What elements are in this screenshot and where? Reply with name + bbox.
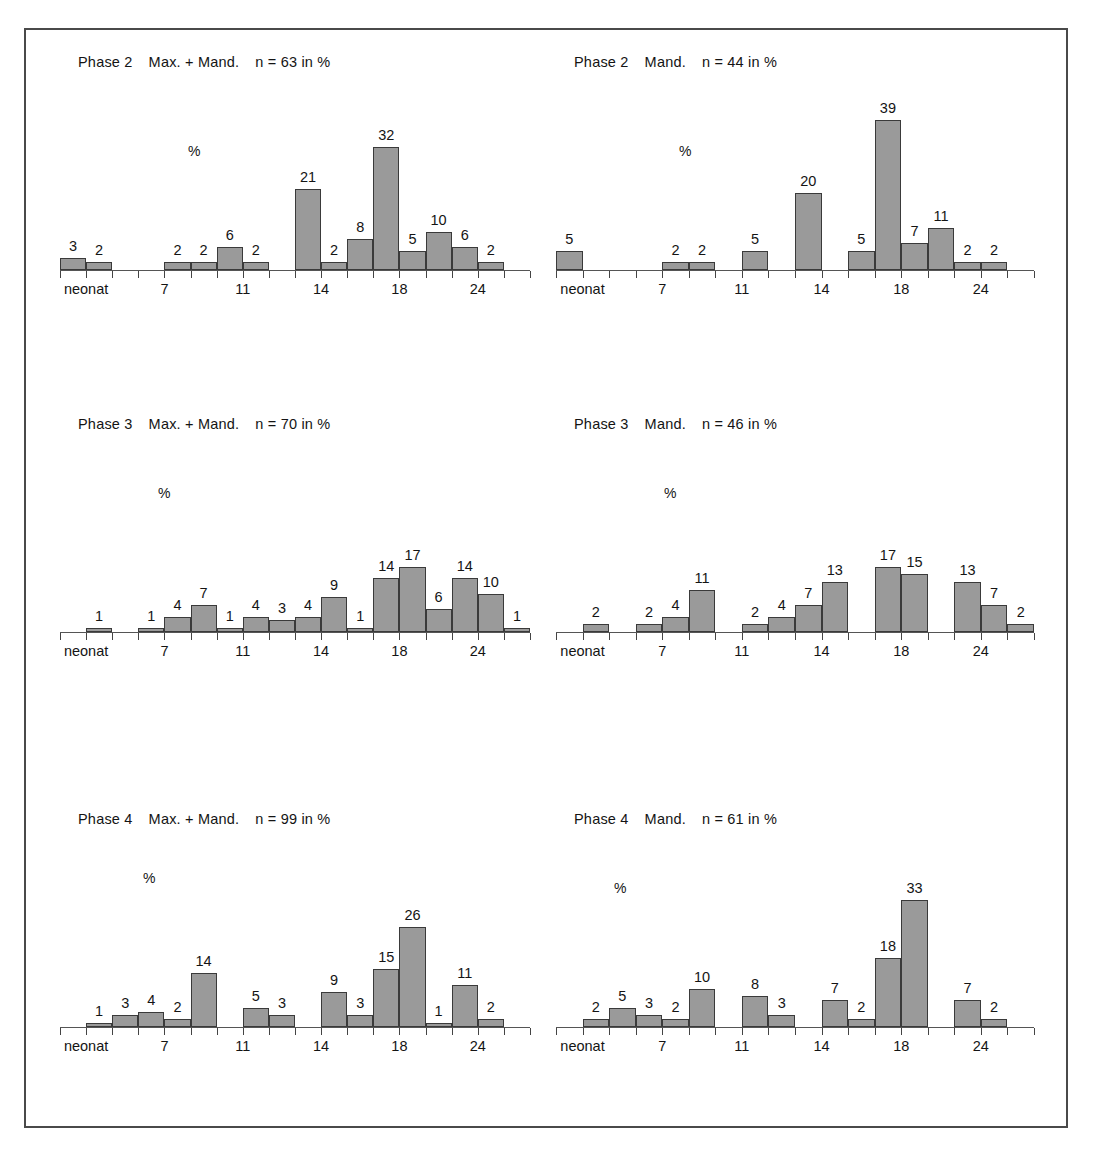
- bar-value-label: 5: [735, 231, 775, 247]
- x-axis-tick-label: 7: [124, 281, 204, 297]
- x-axis-tick-label: 7: [622, 281, 702, 297]
- bar: [373, 578, 399, 632]
- bar: [662, 1019, 689, 1027]
- x-axis-tick: [164, 271, 165, 278]
- bar: [742, 251, 769, 270]
- bar-value-label: 15: [895, 554, 935, 570]
- x-axis-tick: [1034, 271, 1035, 278]
- chart-title-n: n = 63 in %: [255, 54, 330, 70]
- bar: [795, 193, 822, 270]
- x-axis-tick-label: 7: [622, 643, 702, 659]
- x-axis-tick: [373, 271, 374, 278]
- x-axis-tick: [742, 633, 743, 640]
- bar: [164, 1019, 190, 1027]
- x-axis-tick: [295, 271, 296, 278]
- x-axis-tick: [689, 633, 690, 640]
- x-axis-tick-label: 14: [782, 281, 862, 297]
- bar-value-label: 33: [895, 880, 935, 896]
- x-axis-tick: [243, 1028, 244, 1035]
- bar-value-label: 11: [921, 208, 961, 224]
- bar-value-label: 2: [236, 242, 276, 258]
- bar-value-label: 14: [445, 558, 485, 574]
- x-axis-tick-label: 24: [941, 643, 1021, 659]
- bar-value-label: 2: [974, 242, 1014, 258]
- bar: [848, 1019, 875, 1027]
- x-axis-tick: [217, 633, 218, 640]
- x-axis-tick: [556, 271, 557, 278]
- x-axis-tick-label: 24: [941, 1038, 1021, 1054]
- x-axis-tick: [399, 633, 400, 640]
- x-axis-tick: [795, 1028, 796, 1035]
- x-axis-tick: [981, 633, 982, 640]
- bar-value-label: 2: [79, 242, 119, 258]
- x-axis-tick-label: 7: [124, 643, 204, 659]
- bar-value-label: 2: [471, 242, 511, 258]
- chart-title-group: Max. + Mand.: [149, 811, 240, 827]
- bar-value-label: 7: [948, 980, 988, 996]
- x-axis-tick-label: 18: [359, 643, 439, 659]
- y-axis-unit-label: %: [188, 143, 200, 159]
- bar-value-label: 3: [762, 995, 802, 1011]
- x-axis-tick-label: 14: [782, 1038, 862, 1054]
- bar: [347, 628, 373, 632]
- x-axis-tick: [609, 1028, 610, 1035]
- chart-title: Phase 3Mand.n = 46 in %: [574, 416, 777, 432]
- bar: [742, 624, 769, 632]
- bar: [981, 262, 1008, 270]
- chart-phase4-max-mand: Phase 4Max. + Mand.n = 99 in %%neonat711…: [38, 805, 550, 1095]
- x-axis-tick: [295, 633, 296, 640]
- bar-value-label: 1: [497, 608, 537, 624]
- x-axis-tick: [373, 1028, 374, 1035]
- x-axis-tick: [609, 271, 610, 278]
- x-axis-tick: [742, 1028, 743, 1035]
- bar: [269, 1015, 295, 1027]
- x-axis-tick-label: 14: [281, 643, 361, 659]
- x-axis-tick: [662, 271, 663, 278]
- chart-phase4-mand: Phase 4Mand.n = 61 in %%neonat7111418242…: [534, 805, 1054, 1095]
- x-axis-tick: [452, 1028, 453, 1035]
- bar-value-label: 11: [445, 965, 485, 981]
- bar-value-label: 5: [549, 231, 589, 247]
- x-axis-tick: [426, 633, 427, 640]
- chart-phase3-max-mand: Phase 3Max. + Mand.n = 70 in %%neonat711…: [38, 410, 550, 700]
- x-axis-tick: [164, 633, 165, 640]
- x-axis-tick: [609, 633, 610, 640]
- bar-value-label: 7: [184, 585, 224, 601]
- bar: [556, 251, 583, 270]
- x-axis-tick: [875, 1028, 876, 1035]
- bar: [662, 262, 689, 270]
- bar: [217, 628, 243, 632]
- x-axis-tick: [243, 633, 244, 640]
- bar-value-label: 9: [314, 972, 354, 988]
- bar-value-label: 7: [974, 585, 1014, 601]
- x-axis-tick: [86, 271, 87, 278]
- x-axis-tick-label: 14: [281, 281, 361, 297]
- chart-title-phase: Phase 2: [574, 54, 629, 70]
- x-axis-tick: [530, 1028, 531, 1035]
- x-axis-tick: [191, 633, 192, 640]
- chart-title-phase: Phase 3: [78, 416, 133, 432]
- x-axis-tick: [715, 271, 716, 278]
- chart-title: Phase 3Max. + Mand.n = 70 in %: [78, 416, 330, 432]
- x-axis-tick: [243, 271, 244, 278]
- x-axis-tick-label: 11: [203, 281, 283, 297]
- x-axis-tick: [321, 271, 322, 278]
- x-axis-tick: [426, 1028, 427, 1035]
- x-axis-tick-label: 11: [702, 643, 782, 659]
- x-axis-tick-label: 18: [359, 281, 439, 297]
- x-axis-tick: [138, 271, 139, 278]
- x-axis-tick-label: 18: [359, 1038, 439, 1054]
- bar: [583, 1019, 610, 1027]
- chart-phase3-mand: Phase 3Mand.n = 46 in %%neonat7111418242…: [534, 410, 1054, 700]
- x-axis-tick: [164, 1028, 165, 1035]
- bar: [901, 243, 928, 270]
- bar: [768, 1015, 795, 1027]
- chart-title: Phase 4Max. + Mand.n = 99 in %: [78, 811, 330, 827]
- bar: [662, 617, 689, 632]
- chart-title-group: Mand.: [645, 811, 686, 827]
- x-axis-tick: [636, 633, 637, 640]
- x-axis-tick-label: neonat: [46, 281, 126, 297]
- bar-value-label: 6: [210, 227, 250, 243]
- bar: [636, 1015, 663, 1027]
- x-axis-tick: [795, 271, 796, 278]
